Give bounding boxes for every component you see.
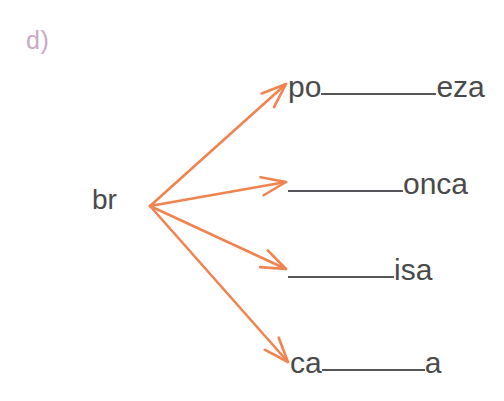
- branch-2-suffix: onca: [403, 167, 468, 200]
- branch-word-2: onca: [288, 169, 468, 199]
- exercise-label: d): [26, 28, 49, 53]
- branch-4-blank[interactable]: [322, 369, 425, 371]
- branch-1-prefix: po: [288, 70, 321, 103]
- arrow-4-shaft: [150, 206, 286, 360]
- branch-4-prefix: ca: [290, 346, 322, 379]
- branch-2-blank[interactable]: [288, 190, 403, 192]
- arrow-layer: [0, 0, 504, 401]
- arrow-group: [150, 84, 288, 362]
- branch-1-suffix: eza: [436, 70, 484, 103]
- branch-word-3: isa: [288, 255, 432, 285]
- branch-1-blank[interactable]: [321, 93, 436, 95]
- arrow-2-head-barb-2: [264, 182, 286, 195]
- arrow-4-head-barb-2: [265, 350, 288, 362]
- arrow-3-shaft: [150, 206, 283, 268]
- branch-word-4: caa: [290, 348, 441, 378]
- arrow-3-head-barb-1: [268, 250, 286, 269]
- arrow-4-head-barb-1: [279, 338, 288, 362]
- arrow-2-shaft: [150, 183, 283, 206]
- worksheet-diagram: d) br poeza onca isa caa: [0, 0, 504, 401]
- arrow-1-head-barb-1: [262, 84, 286, 93]
- arrow-1-shaft: [150, 86, 284, 206]
- branch-3-blank[interactable]: [288, 276, 394, 278]
- arrow-2-head-barb-1: [260, 177, 286, 182]
- root-word-br: br: [92, 186, 117, 214]
- branch-3-suffix: isa: [394, 253, 432, 286]
- branch-word-1: poeza: [288, 72, 485, 102]
- arrow-1-head-barb-2: [274, 84, 286, 107]
- arrow-3-head-barb-2: [260, 267, 286, 269]
- branch-4-suffix: a: [425, 346, 442, 379]
